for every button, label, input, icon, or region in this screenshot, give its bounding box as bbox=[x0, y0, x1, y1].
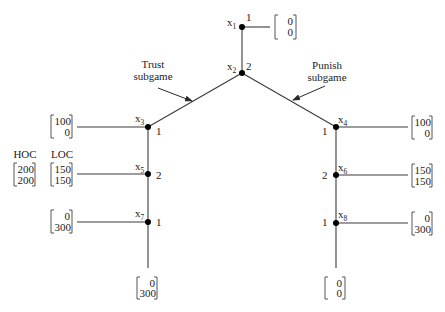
node-x3 bbox=[145, 124, 151, 130]
svg-text:300: 300 bbox=[140, 287, 157, 299]
game-tree-figure: x1 1 x2 2 x3 1 x4 1 x5 2 x6 2 x7 1 x8 1 … bbox=[0, 0, 445, 312]
player-label-x6: 2 bbox=[322, 169, 328, 181]
player-label-x3: 1 bbox=[156, 125, 162, 137]
trust-subgame-annotation: Trust subgame bbox=[133, 58, 192, 101]
svg-text:150: 150 bbox=[415, 175, 432, 187]
player-label-x5: 2 bbox=[156, 169, 162, 181]
node-x8 bbox=[333, 220, 339, 226]
svg-text:200: 200 bbox=[18, 174, 35, 186]
payoff-x3-left: 100 0 bbox=[51, 115, 72, 138]
player-label-x8: 1 bbox=[322, 216, 328, 228]
node-label-x1: x1 bbox=[227, 16, 237, 31]
svg-text:0: 0 bbox=[425, 127, 431, 139]
node-label-x2: x2 bbox=[227, 60, 237, 75]
player-label-x1: 1 bbox=[246, 11, 252, 23]
node-label-x8: x8 bbox=[338, 208, 348, 223]
payoff-x8-down: 0 0 bbox=[325, 277, 345, 299]
node-x1 bbox=[239, 24, 245, 30]
tree-edges bbox=[77, 27, 408, 268]
punish-label-line2: subgame bbox=[307, 71, 346, 83]
payoff-x5-hoc: 200 200 bbox=[14, 163, 35, 186]
node-x2 bbox=[239, 70, 245, 76]
svg-text:150: 150 bbox=[55, 174, 72, 186]
payoff-x8-right: 0 300 bbox=[412, 212, 432, 235]
svg-text:300: 300 bbox=[55, 221, 72, 233]
player-label-x2: 2 bbox=[246, 60, 252, 72]
trust-arrow-icon bbox=[158, 88, 192, 101]
node-x5 bbox=[145, 171, 151, 177]
trust-label-line2: subgame bbox=[133, 70, 172, 82]
payoff-x6-right: 150 150 bbox=[412, 164, 432, 187]
node-label-x6: x6 bbox=[338, 161, 348, 176]
svg-text:0: 0 bbox=[288, 26, 294, 38]
node-x7 bbox=[145, 219, 151, 225]
player-label-x7: 1 bbox=[156, 216, 162, 228]
node-labels: x1 1 x2 2 x3 1 x4 1 x5 2 x6 2 x7 1 x8 1 bbox=[135, 11, 348, 228]
svg-text:0: 0 bbox=[337, 287, 343, 299]
node-label-x5: x5 bbox=[135, 160, 145, 175]
punish-arrow-icon bbox=[293, 86, 325, 100]
payoff-x5-loc: 150 150 bbox=[51, 163, 72, 186]
trust-label-line1: Trust bbox=[142, 58, 165, 70]
loc-label: LOC bbox=[51, 148, 73, 160]
player-label-x4: 1 bbox=[322, 125, 328, 137]
node-label-x7: x7 bbox=[135, 207, 145, 222]
payoff-x1-exit: 0 0 bbox=[275, 15, 296, 39]
svg-text:300: 300 bbox=[415, 223, 432, 235]
node-label-x3: x3 bbox=[135, 112, 145, 127]
punish-subgame-annotation: Punish subgame bbox=[293, 59, 347, 100]
payoff-x4-right: 100 0 bbox=[412, 116, 432, 139]
payoff-x7-down: 0 300 bbox=[137, 277, 157, 299]
hoc-label: HOC bbox=[13, 148, 36, 160]
payoff-x7-left: 0 300 bbox=[51, 210, 72, 233]
punish-label-line1: Punish bbox=[312, 59, 342, 71]
node-label-x4: x4 bbox=[338, 113, 348, 128]
svg-text:0: 0 bbox=[65, 126, 71, 138]
